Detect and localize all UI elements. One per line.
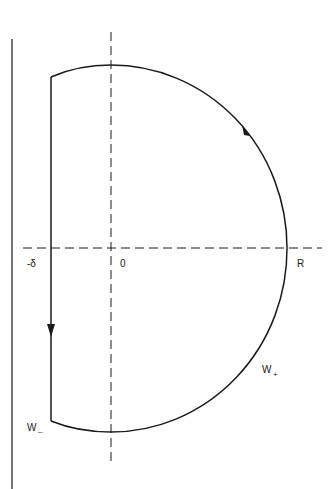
arc-arrow-icon (242, 125, 250, 136)
label-w-minus-sub: _ (37, 424, 43, 433)
label-radius: R (297, 258, 304, 269)
top-connector-curve (51, 65, 111, 77)
label-neg-delta: -δ (27, 258, 36, 269)
segment-arrow-icon (47, 324, 55, 337)
bottom-connector-curve (51, 421, 111, 432)
label-w-plus: W (262, 364, 272, 375)
label-w-plus-sub: + (273, 370, 278, 379)
label-w-minus: W (27, 422, 37, 433)
contour-diagram: -δ 0 R W + W _ (0, 0, 333, 489)
label-origin: 0 (120, 258, 126, 269)
